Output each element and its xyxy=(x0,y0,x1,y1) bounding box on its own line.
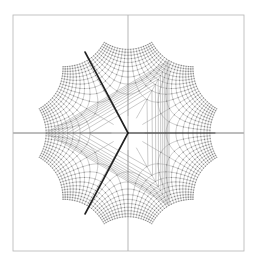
grid-node xyxy=(149,222,150,223)
grid-node xyxy=(209,112,210,113)
grid-node xyxy=(43,146,44,147)
grid-node xyxy=(150,67,151,68)
grid-node xyxy=(78,195,79,196)
grid-node xyxy=(109,212,110,213)
grid-node xyxy=(87,205,88,206)
grid-node xyxy=(146,47,147,48)
grid-node xyxy=(45,135,46,136)
grid-node xyxy=(91,68,92,69)
grid-node xyxy=(76,156,77,157)
grid-node xyxy=(54,115,55,116)
grid-node xyxy=(64,88,65,89)
grid-node xyxy=(104,223,105,224)
grid-node xyxy=(154,214,155,215)
grid-node xyxy=(176,73,177,74)
grid-node xyxy=(88,63,89,64)
grid-node xyxy=(122,216,123,217)
grid-node xyxy=(175,160,176,161)
grid-node xyxy=(89,171,90,172)
grid-node xyxy=(118,69,119,70)
grid-node xyxy=(106,213,107,214)
grid-node xyxy=(171,182,172,183)
grid-node xyxy=(208,144,209,145)
grid-node xyxy=(55,118,56,119)
grid-node xyxy=(210,110,211,111)
grid-node xyxy=(149,213,150,214)
grid-node xyxy=(211,108,212,109)
grid-node xyxy=(158,163,159,164)
grid-node xyxy=(120,82,121,83)
grid-node xyxy=(113,213,114,214)
grid-node xyxy=(184,90,185,91)
grid-node xyxy=(58,129,59,130)
grid-node xyxy=(73,80,74,81)
grid-node xyxy=(57,174,58,175)
grid-node xyxy=(66,112,67,113)
grid-node xyxy=(176,201,177,202)
grid-node xyxy=(201,115,202,116)
grid-node xyxy=(94,199,95,200)
grid-node xyxy=(121,58,122,59)
grid-node xyxy=(69,182,70,183)
grid-node xyxy=(175,84,176,85)
grid-node xyxy=(171,197,172,198)
grid-node xyxy=(96,196,97,197)
grid-node xyxy=(145,85,146,86)
grid-node xyxy=(85,71,86,72)
grid-node xyxy=(78,70,79,71)
grid-node xyxy=(63,156,64,157)
grid-node xyxy=(72,194,73,195)
grid-node xyxy=(48,129,49,130)
grid-node xyxy=(205,152,206,153)
grid-node xyxy=(91,208,92,209)
grid-node xyxy=(154,206,155,207)
grid-node xyxy=(211,161,212,162)
grid-node xyxy=(200,172,201,173)
grid-node xyxy=(60,169,61,170)
grid-node xyxy=(183,71,184,72)
grid-node xyxy=(91,197,92,198)
grid-node xyxy=(156,62,157,63)
grid-node xyxy=(180,197,181,198)
grid-node xyxy=(51,126,52,127)
grid-node xyxy=(141,216,142,217)
grid-node xyxy=(52,105,53,106)
grid-node xyxy=(65,71,66,72)
grid-node xyxy=(179,118,180,119)
grid-node xyxy=(47,124,48,125)
grid-node xyxy=(62,66,63,67)
grid-node xyxy=(43,117,44,118)
grid-node xyxy=(99,57,100,58)
grid-node xyxy=(150,185,151,186)
grid-node xyxy=(193,192,194,193)
grid-node xyxy=(162,55,163,56)
grid-node xyxy=(190,71,191,72)
grid-node xyxy=(210,124,211,125)
grid-node xyxy=(79,73,80,74)
grid-node xyxy=(202,143,203,144)
grid-node xyxy=(41,107,42,108)
grid-node xyxy=(100,51,101,52)
grid-node xyxy=(87,78,88,79)
grid-node xyxy=(183,139,184,140)
grid-node xyxy=(158,79,159,80)
grid-node xyxy=(145,220,146,221)
grid-node xyxy=(103,212,104,213)
grid-node xyxy=(44,122,45,123)
grid-node xyxy=(188,186,189,187)
grid-node xyxy=(201,170,202,171)
grid-node xyxy=(61,78,62,79)
grid-node xyxy=(190,95,191,96)
grid-node xyxy=(41,153,42,154)
grid-node xyxy=(146,212,147,213)
grid-node xyxy=(194,101,195,102)
grid-node xyxy=(143,55,144,56)
grid-node xyxy=(64,76,65,77)
grid-node xyxy=(189,100,190,101)
grid-node xyxy=(150,54,151,55)
grid-node xyxy=(179,147,180,148)
grid-node xyxy=(104,51,105,52)
grid-node xyxy=(199,168,200,169)
grid-node xyxy=(160,62,161,63)
grid-node xyxy=(72,113,73,114)
